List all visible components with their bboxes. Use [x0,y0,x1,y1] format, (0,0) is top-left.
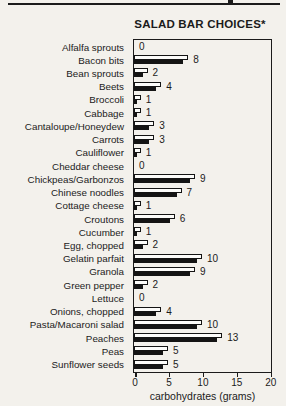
category-label: Bean sprouts [0,67,129,80]
category-label: Cottage cheese [0,199,129,212]
top-divider [8,3,280,5]
category-label: Pasta/Macaroni salad [0,318,129,331]
bar [134,280,148,289]
bar [134,201,141,210]
bar-shadow [134,126,149,130]
x-tick-label: 5 [157,377,181,388]
value-label: 2 [153,68,159,78]
value-label: 0 [139,293,145,303]
top-divider-notch [228,0,233,3]
bar-shadow [134,259,197,263]
bar-shadow [134,73,143,77]
x-tick-label: 20 [259,377,283,388]
bar-shadow [134,272,190,276]
category-label: Granola [0,265,129,278]
value-label: 1 [146,201,152,211]
category-label: Cabbage [0,107,129,120]
category-label: Bacon bits [0,54,129,67]
x-tick-label: 10 [191,377,215,388]
bar-shadow [134,100,137,104]
value-label: 9 [200,174,206,184]
bar [134,227,141,236]
bar [134,254,202,263]
value-label: 0 [139,42,145,52]
value-label: 3 [159,135,165,145]
bar [134,240,148,249]
value-label: 10 [207,320,218,330]
bar [134,68,148,77]
bar [134,135,154,144]
bar [134,121,154,130]
category-label: Peas [0,345,129,358]
value-label: 1 [146,95,152,105]
bar [134,346,168,355]
value-label: 5 [173,346,179,356]
value-label: 7 [187,188,193,198]
value-label: 9 [200,267,206,277]
bar [134,55,188,64]
category-label: Alfalfa sprouts [0,41,129,54]
scanned-page: SALAD BAR CHOICES* 082411331097161210920… [0,0,286,406]
value-label: 1 [146,227,152,237]
category-label: Green pepper [0,279,129,292]
value-label: 4 [166,307,172,317]
value-label: 4 [166,82,172,92]
category-label: Chickpeas/Garbonzos [0,173,129,186]
value-label: 1 [146,148,152,158]
bar-shadow [134,219,170,223]
value-label: 3 [159,121,165,131]
value-label: 0 [139,161,145,171]
bar-shadow [134,193,177,197]
bar [134,148,141,157]
bar [134,267,195,276]
value-label: 2 [153,280,159,290]
bar-shadow [134,325,197,329]
bar-shadow [134,365,163,369]
category-label: Broccoli [0,93,129,106]
bar-shadow [134,87,156,91]
category-label: Egg, chopped [0,239,129,252]
category-label: Croutons [0,213,129,226]
category-label: Beets [0,80,129,93]
bar [134,82,161,91]
x-tick-label: 0 [123,377,147,388]
category-label: Sunflower seeds [0,358,129,371]
bar [134,307,161,316]
chart-title: SALAD BAR CHOICES* [128,18,272,30]
category-label: Peaches [0,332,129,345]
bar-shadow [134,232,137,236]
bar-shadow [134,351,163,355]
bar-shadow [134,179,190,183]
value-label: 2 [153,240,159,250]
bar [134,320,202,329]
bar-shadow [134,206,137,210]
bar [134,108,141,117]
category-label: Carrots [0,133,129,146]
value-label: 6 [180,214,186,224]
bar [134,214,175,223]
bar [134,174,195,183]
bar [134,333,222,342]
category-label: Cantaloupe/Honeydew [0,120,129,133]
category-label: Gelatin parfait [0,252,129,265]
category-label: Onions, chopped [0,305,129,318]
value-label: 8 [193,55,199,65]
plot-area: 0824113310971612109204101355 [133,39,272,373]
category-label: Cauliflower [0,146,129,159]
bar-shadow [134,338,217,342]
value-label: 5 [173,360,179,370]
bar-shadow [134,285,143,289]
bar-shadow [134,245,143,249]
category-label: Lettuce [0,292,129,305]
category-label: Cucumber [0,226,129,239]
bar [134,95,141,104]
bar-shadow [134,312,156,316]
x-axis-label: carbohydrates (grams) [133,390,272,402]
value-label: 1 [146,108,152,118]
category-label: Cheddar cheese [0,160,129,173]
value-label: 13 [227,333,238,343]
category-label: Chinese noodles [0,186,129,199]
bar-shadow [134,140,149,144]
value-label: 10 [207,254,218,264]
bar [134,188,182,197]
